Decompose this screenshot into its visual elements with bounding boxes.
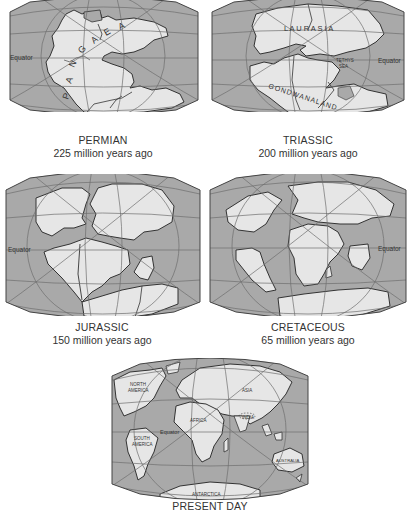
present-day-caption: PRESENT DAY: [110, 500, 310, 513]
era-age: 225 million years ago: [4, 147, 202, 160]
equator-label: Equator: [378, 245, 402, 253]
south-america-label: SOUTH: [134, 436, 150, 441]
south-america-label: AMERICA: [132, 442, 153, 447]
laurasia-label: L A U R A S I A: [284, 24, 333, 33]
era-title: PRESENT DAY: [110, 500, 310, 513]
era-title: TRIASSIC: [208, 134, 408, 147]
jurassic-map: Equator: [2, 174, 202, 316]
tethys-sea-label: TETHYS: [336, 58, 354, 63]
equator-label: Equator: [378, 57, 402, 65]
india-label: INDIA: [242, 415, 254, 420]
era-title: PERMIAN: [4, 134, 202, 147]
era-title: CRETACEOUS: [208, 321, 408, 334]
asia-label: ASIA: [242, 388, 252, 393]
present-day-map: NORTH AMERICA SOUTH AMERICA Equator AFRI…: [110, 358, 310, 500]
australia-label: AUSTRALIA: [276, 458, 299, 463]
equator-label: Equator: [10, 54, 34, 62]
triassic-map: Equator L A U R A S I A TETHYS SEA GONDW…: [208, 0, 408, 112]
tethys-sea-label: SEA: [339, 64, 348, 69]
era-title: JURASSIC: [2, 321, 202, 334]
jurassic-caption: JURASSIC 150 million years ago: [2, 321, 202, 347]
permian-caption: PERMIAN 225 million years ago: [4, 134, 202, 160]
cretaceous-map: Equator: [208, 174, 408, 316]
era-age: 150 million years ago: [2, 334, 202, 347]
triassic-caption: TRIASSIC 200 million years ago: [208, 134, 408, 160]
north-america-label: NORTH: [130, 382, 146, 387]
era-age: 200 million years ago: [208, 147, 408, 160]
north-america-label: AMERICA: [128, 388, 149, 393]
equator-label: Equator: [160, 429, 179, 435]
permian-map: Equator P A N G A E A: [4, 0, 202, 112]
antarctica-label: ANTARCTICA: [192, 492, 220, 497]
africa-label: AFRICA: [190, 418, 207, 423]
cretaceous-caption: CRETACEOUS 65 million years ago: [208, 321, 408, 347]
era-age: 65 million years ago: [208, 334, 408, 347]
equator-label: Equator: [8, 246, 32, 254]
